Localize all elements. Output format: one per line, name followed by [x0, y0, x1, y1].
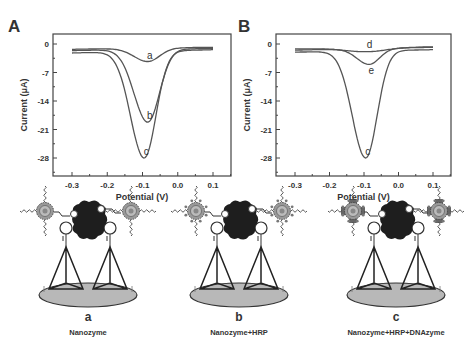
- y-tick-label: -28: [260, 154, 272, 163]
- curve-label-c: c: [365, 146, 370, 157]
- x-tick-label: -0.3: [65, 181, 79, 190]
- scheme-c: cNanozyme+HRP+DNAzyme: [328, 186, 464, 337]
- y-tick-label: -7: [42, 69, 50, 78]
- y-axis-title: Current (μA): [242, 78, 252, 131]
- panel-label: B: [238, 17, 250, 36]
- scheme-letter: c: [393, 310, 400, 324]
- aptamer-loop: [368, 222, 380, 234]
- curve-b: [72, 49, 213, 123]
- chart-panel-b: B0-7-14-21-28-0.3-0.2-0.10.00.1Potential…: [238, 17, 451, 202]
- x-tick-label: 0.0: [172, 181, 184, 190]
- x-tick-label: -0.3: [288, 181, 302, 190]
- x-tick-label: 0.0: [393, 181, 405, 190]
- scheme-b: bNanozyme+HRP: [171, 186, 307, 337]
- y-tick-label: -21: [37, 126, 49, 135]
- y-tick-label: -7: [265, 69, 273, 78]
- x-tick-label: 0.1: [427, 181, 439, 190]
- x-tick-label: -0.2: [100, 181, 114, 190]
- scheme-letter: a: [85, 310, 92, 324]
- aptamer-loop: [211, 222, 223, 234]
- y-tick-label: -14: [260, 97, 272, 106]
- scheme-caption: Nanozyme+HRP+DNAzyme: [347, 328, 444, 337]
- curve-c: [72, 50, 213, 158]
- x-axis-title: Potential (V): [116, 192, 169, 202]
- panel-label: A: [8, 17, 20, 36]
- curve-label-d: d: [367, 39, 373, 50]
- curve-c: [295, 50, 433, 158]
- plot-frame: [53, 34, 231, 176]
- y-tick-label: -21: [260, 126, 272, 135]
- aptamer-loop: [60, 222, 72, 234]
- x-tick-label: -0.1: [357, 181, 371, 190]
- curve-label-a: a: [147, 50, 153, 61]
- curve-label-e: e: [368, 65, 374, 76]
- y-tick-label: 0: [45, 40, 50, 49]
- curve-label-c: c: [144, 146, 149, 157]
- x-tick-label: -0.1: [136, 181, 150, 190]
- x-tick-label: -0.2: [323, 181, 337, 190]
- y-tick-label: 0: [268, 40, 273, 49]
- figure: A0-7-14-21-28-0.3-0.2-0.10.00.1Potential…: [0, 0, 471, 355]
- y-tick-label: -14: [37, 97, 49, 106]
- x-axis-title: Potential (V): [337, 192, 390, 202]
- scheme-caption: Nanozyme: [69, 328, 107, 337]
- y-axis-title: Current (μA): [19, 78, 29, 131]
- chart-panel-a: A0-7-14-21-28-0.3-0.2-0.10.00.1Potential…: [8, 17, 231, 202]
- scheme-a: aNanozyme: [20, 186, 156, 337]
- scheme-caption: Nanozyme+HRP: [210, 328, 268, 337]
- curve-label-b: b: [147, 110, 153, 121]
- scheme-letter: b: [235, 310, 242, 324]
- x-tick-label: 0.1: [207, 181, 219, 190]
- y-tick-label: -28: [37, 154, 49, 163]
- plot-frame: [276, 34, 451, 176]
